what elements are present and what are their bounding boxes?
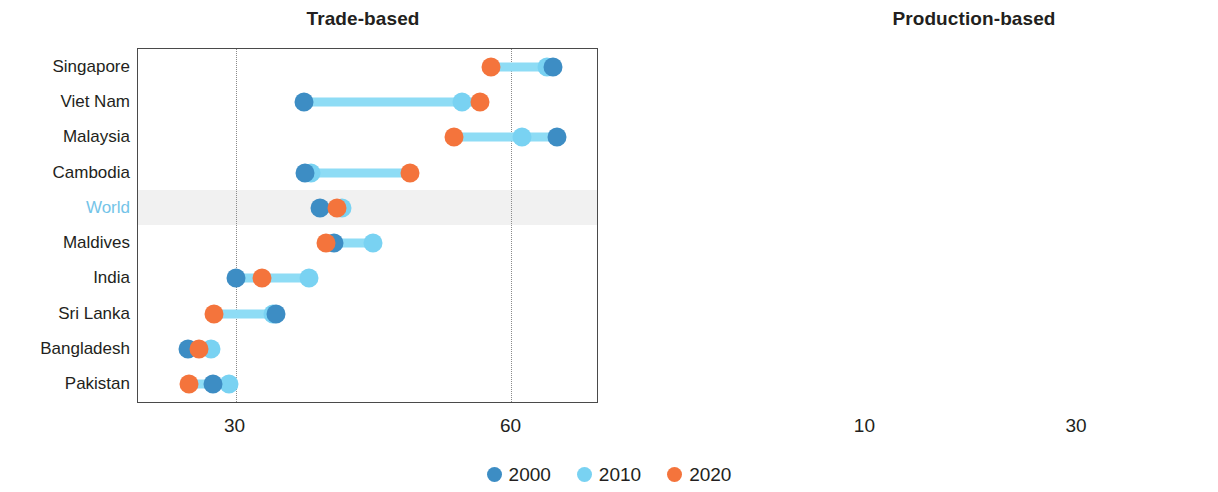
data-point-2020 xyxy=(205,304,224,323)
row-label-singapore: Singapore xyxy=(52,57,130,74)
row-label-viet-nam: Viet Nam xyxy=(60,92,130,109)
data-point-2000 xyxy=(203,375,222,394)
data-point-2020 xyxy=(189,340,208,359)
row-label-maldives: Maldives xyxy=(63,234,130,251)
legend-item-2000: 2000 xyxy=(487,465,551,484)
data-point-2000 xyxy=(296,163,315,182)
legend-item-2010: 2010 xyxy=(577,465,641,484)
chart-figure: Trade-based SingaporeViet NamMalaysiaCam… xyxy=(0,0,1218,492)
plot-area-trade-based xyxy=(137,48,598,403)
data-point-2020 xyxy=(445,128,464,147)
row-label-cambodia: Cambodia xyxy=(53,163,131,180)
data-point-2010 xyxy=(452,92,471,111)
x-tick-label-10: 10 xyxy=(854,415,875,437)
data-point-2020 xyxy=(471,92,490,111)
legend-item-2020: 2020 xyxy=(667,465,731,484)
data-point-2020 xyxy=(327,198,346,217)
row-labels-trade-based: SingaporeViet NamMalaysiaCambodiaWorldMa… xyxy=(0,48,130,403)
panel-title-production-based: Production-based xyxy=(610,8,1218,30)
data-point-2020 xyxy=(253,269,272,288)
legend-swatch-icon xyxy=(577,467,592,482)
legend-swatch-icon xyxy=(667,467,682,482)
row-label-sri-lanka: Sri Lanka xyxy=(58,304,130,321)
data-point-2010 xyxy=(364,234,383,253)
data-point-2020 xyxy=(179,375,198,394)
data-point-2000 xyxy=(547,128,566,147)
legend-swatch-icon xyxy=(487,467,502,482)
legend: 200020102020 xyxy=(0,465,1218,484)
x-tick-label-30: 30 xyxy=(1066,415,1087,437)
panel-trade-based: Trade-based SingaporeViet NamMalaysiaCam… xyxy=(0,0,604,462)
data-point-2010 xyxy=(220,375,239,394)
row-label-malaysia: Malaysia xyxy=(63,128,130,145)
panel-title-trade-based: Trade-based xyxy=(0,8,604,30)
data-point-2000 xyxy=(543,57,562,76)
x-tick-label-60: 60 xyxy=(500,415,521,437)
legend-label: 2000 xyxy=(509,465,551,484)
world-highlight-band xyxy=(138,190,597,225)
panel-production-based: Production-based SingaporeMalaysiaMaldiv… xyxy=(610,0,1218,462)
legend-label: 2010 xyxy=(599,465,641,484)
row-label-pakistan: Pakistan xyxy=(65,375,130,392)
data-point-2000 xyxy=(294,92,313,111)
legend-label: 2020 xyxy=(689,465,731,484)
connector-line xyxy=(305,168,410,177)
data-point-2000 xyxy=(266,304,285,323)
x-tick-label-30: 30 xyxy=(224,415,245,437)
row-label-bangladesh: Bangladesh xyxy=(40,340,130,357)
data-point-2010 xyxy=(513,128,532,147)
row-label-india: India xyxy=(93,269,130,286)
gridline-60 xyxy=(511,49,513,402)
connector-line xyxy=(454,133,556,142)
gridline-30 xyxy=(236,49,238,402)
data-point-2020 xyxy=(316,234,335,253)
data-point-2020 xyxy=(401,163,420,182)
connector-line xyxy=(236,274,309,283)
data-point-2010 xyxy=(300,269,319,288)
row-label-world: World xyxy=(86,198,130,215)
data-point-2020 xyxy=(482,57,501,76)
data-point-2000 xyxy=(227,269,246,288)
